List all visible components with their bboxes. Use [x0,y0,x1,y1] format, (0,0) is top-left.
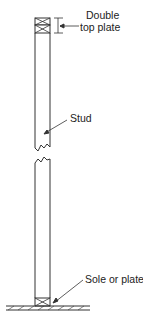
stud-lower [35,157,50,298]
floor [6,306,90,310]
framing-diagram [0,0,143,319]
label-stud: Stud [70,112,92,124]
double-top-plate [35,18,50,33]
stud-leader [44,120,67,134]
sole-plate [35,298,50,306]
label-top-plate: top plate [80,21,120,33]
sole-leader [53,280,83,303]
label-double: Double [86,9,119,21]
label-sole-plate: Sole or plate [85,273,143,285]
top-plate-dimension [54,18,79,33]
